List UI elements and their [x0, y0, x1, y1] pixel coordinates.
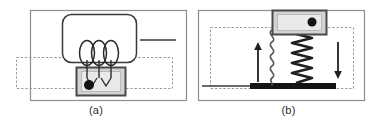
panel-b: (b) — [192, 0, 385, 126]
panel-a-contact-dot — [84, 80, 94, 90]
panel-a-rounded-body — [63, 15, 137, 63]
panel-b-base-bar — [250, 83, 336, 89]
panel-b-arrow-up — [254, 42, 262, 82]
panel-a: (a) — [0, 0, 192, 126]
figure-container: (a) — [0, 0, 385, 126]
panel-b-caption: (b) — [192, 104, 385, 116]
panel-b-thick-spring — [292, 28, 312, 83]
panel-b-thin-spring — [270, 30, 273, 85]
panel-b-arrow-down — [334, 42, 342, 79]
panel-a-caption: (a) — [0, 104, 192, 116]
panel-b-contact-dot — [308, 18, 317, 27]
panel-b-dashed-region — [211, 28, 354, 89]
